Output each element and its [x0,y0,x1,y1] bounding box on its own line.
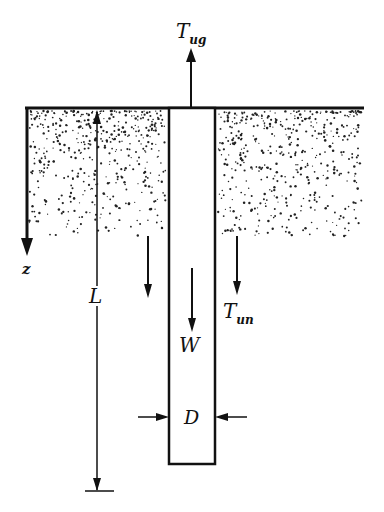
weight-label: W [179,333,201,357]
arrow-down-icon [233,281,241,295]
pile-uplift-diagram: Tug z L Tun W D [0,0,384,512]
diameter-label: D [183,406,199,428]
arrow-down-icon [144,284,152,298]
uplift-force-label: Tug [176,19,206,47]
arrow-down-icon [21,238,33,256]
arrow-down-icon [93,478,101,491]
uplift-force-arrow [186,48,196,108]
depth-axis-arrow [21,108,33,256]
arrow-up-icon [186,48,196,62]
arrow-left-icon [215,413,228,421]
skin-friction-label: Tun [223,299,254,327]
arrow-right-icon [156,413,169,421]
length-label: L [88,284,102,308]
depth-axis-label: z [21,260,31,278]
